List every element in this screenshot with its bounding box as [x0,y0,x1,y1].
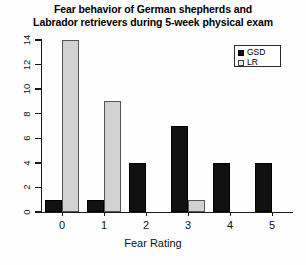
x-axis-tick [146,212,147,216]
x-axis-tick [188,212,189,216]
legend-swatch-lr [238,60,244,66]
bar-gsd-2 [129,163,146,212]
y-axis-tick-label: 14 [22,31,32,49]
chart-legend: GSD LR [234,45,281,67]
bar-gsd-3 [171,126,188,212]
y-axis-tick-label: 12 [22,56,32,74]
y-axis-tick-label: 4 [22,154,32,172]
x-axis-tick [62,212,63,216]
legend-item-gsd: GSD [238,48,280,57]
bar-gsd-0 [45,200,62,212]
x-axis-tick [104,212,105,216]
y-axis-tick-label: 10 [22,80,32,98]
x-axis-tick-label: 2 [134,219,158,231]
legend-item-lr: LR [238,58,280,67]
y-axis-tick-label: 2 [22,178,32,196]
x-axis-tick [272,212,273,216]
bar-gsd-1 [87,200,104,212]
x-axis-tick-label: 3 [176,219,200,231]
x-axis-tick [230,212,231,216]
chart-figure: Fear behavior of German shepherds and La… [0,0,306,265]
legend-label-gsd: GSD [247,48,265,57]
bar-lr-3 [188,200,205,212]
bar-lr-1 [104,101,121,212]
x-axis-tick-label: 5 [260,219,284,231]
chart-title-line-1: Fear behavior of German shepherds and [0,3,306,16]
legend-swatch-gsd [238,50,244,56]
bar-gsd-5 [255,163,272,212]
x-axis-tick-label: 4 [218,219,242,231]
bar-gsd-4 [213,163,230,212]
y-axis-tick-label: 0 [22,203,32,221]
x-axis-title: Fear Rating [0,237,306,249]
y-axis-tick-label: 6 [22,129,32,147]
y-axis-tick-label: 8 [22,105,32,123]
chart-title-line-2: Labrador retrievers during 5-week physic… [0,16,306,29]
bar-lr-0 [62,40,79,212]
legend-label-lr: LR [247,58,258,67]
chart-title: Fear behavior of German shepherds and La… [0,3,306,28]
x-axis-tick-label: 0 [50,219,74,231]
x-axis-tick-label: 1 [92,219,116,231]
